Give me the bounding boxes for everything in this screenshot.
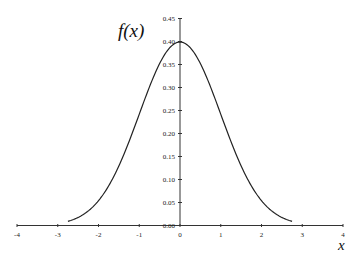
y-tick-label: 0.20 — [163, 130, 176, 138]
y-axis: 0.000.050.100.150.200.250.300.350.400.45 — [163, 15, 182, 230]
y-axis-title: f(x) — [118, 20, 144, 42]
normal-density-chart: -4-3-2-101234 0.000.050.100.150.200.250.… — [0, 0, 363, 263]
x-axis-title: x — [337, 237, 345, 253]
y-tick-label: 0.10 — [163, 176, 176, 184]
x-tick-label: 3 — [301, 231, 305, 239]
y-tick-label: 0.45 — [163, 15, 176, 23]
y-tick-label: 0.30 — [163, 84, 176, 92]
y-tick-label: 0.15 — [163, 153, 176, 161]
x-tick-label: -4 — [14, 231, 20, 239]
y-tick-label: 0.25 — [163, 107, 176, 115]
x-tick-label: 2 — [260, 231, 264, 239]
x-tick-label: -1 — [136, 231, 142, 239]
x-tick-label: 1 — [219, 231, 223, 239]
y-tick-label: 0.05 — [163, 199, 176, 207]
x-tick-label: -3 — [55, 231, 61, 239]
x-tick-label: -2 — [96, 231, 102, 239]
x-axis: -4-3-2-101234 — [14, 224, 345, 239]
y-tick-label: 0.00 — [163, 222, 176, 230]
y-tick-label: 0.35 — [163, 61, 176, 69]
x-tick-label: 0 — [178, 231, 182, 239]
